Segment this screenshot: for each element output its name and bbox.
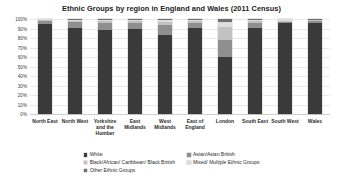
legend-swatch-icon — [84, 153, 88, 157]
x-axis-label: Yorkshire and the Humber — [90, 118, 120, 146]
stacked-bar[interactable] — [248, 19, 262, 114]
x-axis-label: West Midlands — [150, 118, 180, 146]
bars-layer — [30, 19, 330, 114]
bar-segment[interactable] — [158, 25, 172, 35]
legend-swatch-icon — [187, 153, 191, 157]
x-axis-label: East Midlands — [120, 118, 150, 146]
y-axis-tick-label: 30% — [18, 83, 27, 88]
bar-segment[interactable] — [218, 40, 232, 58]
stacked-bar[interactable] — [308, 19, 322, 114]
y-axis-tick-label: 100% — [15, 17, 27, 22]
plot-area — [30, 19, 330, 114]
y-axis-tick-label: 40% — [18, 74, 27, 79]
bar-slot — [30, 19, 60, 114]
legend-column-right: Asian/Asian BritishMixed/ Multiple Ethni… — [187, 152, 260, 184]
bar-slot — [60, 19, 90, 114]
bar-segment[interactable] — [158, 35, 172, 114]
bar-segment[interactable] — [98, 30, 112, 114]
stacked-bar[interactable] — [278, 19, 292, 114]
legend-item[interactable]: Mixed/ Multiple Ethnic Groups — [187, 160, 260, 166]
y-axis-tick-label: 70% — [18, 45, 27, 50]
legend-label: Black/African/ Caribbean/ Black British — [90, 160, 175, 166]
legend-item[interactable]: Black/African/ Caribbean/ Black British — [84, 160, 175, 166]
x-axis-label: North East — [30, 118, 60, 146]
y-axis-tick-label: 20% — [18, 93, 27, 98]
stacked-bar[interactable] — [218, 19, 232, 114]
y-axis-tick-label: 80% — [18, 36, 27, 41]
y-axis-tick-label: 0% — [20, 112, 27, 117]
legend-label: White — [90, 152, 103, 158]
bar-segment[interactable] — [68, 28, 82, 114]
x-axis-label: London — [210, 118, 240, 146]
legend-item[interactable]: Other Ethnic Groups — [84, 168, 175, 174]
x-axis-label: South East — [240, 118, 270, 146]
bar-segment[interactable] — [98, 23, 112, 30]
bar-segment[interactable] — [218, 27, 232, 40]
bar-slot — [240, 19, 270, 114]
stacked-bar[interactable] — [98, 19, 112, 114]
x-axis-label: Wales — [300, 118, 330, 146]
x-axis: North EastNorth WestYorkshire and the Hu… — [30, 118, 330, 146]
legend-swatch-icon — [187, 161, 191, 165]
chart-legend: WhiteBlack/African/ Caribbean/ Black Bri… — [0, 152, 343, 184]
bar-slot — [90, 19, 120, 114]
y-axis-tick-label: 90% — [18, 26, 27, 31]
y-axis-tick-label: 10% — [18, 102, 27, 107]
x-axis-label: North West — [60, 118, 90, 146]
bar-segment[interactable] — [128, 29, 142, 114]
chart-title: Ethnic Groups by region in England and W… — [0, 4, 343, 13]
legend-item[interactable]: White — [84, 152, 175, 158]
y-axis-tick-label: 50% — [18, 64, 27, 69]
legend-item[interactable]: Asian/Asian British — [187, 152, 260, 158]
x-axis-label: South West — [270, 118, 300, 146]
legend-column-left: WhiteBlack/African/ Caribbean/ Black Bri… — [84, 152, 175, 184]
bar-slot — [300, 19, 330, 114]
y-axis: 100%90%80%70%60%50%40%30%20%10%0% — [2, 19, 28, 114]
bar-segment[interactable] — [38, 24, 52, 114]
bar-segment[interactable] — [188, 28, 202, 114]
bar-slot — [150, 19, 180, 114]
stacked-bar[interactable] — [158, 19, 172, 114]
legend-swatch-icon — [84, 161, 88, 165]
bar-segment[interactable] — [308, 23, 322, 114]
y-axis-tick-label: 60% — [18, 55, 27, 60]
stacked-bar[interactable] — [68, 19, 82, 114]
legend-label: Asian/Asian British — [193, 152, 235, 158]
bar-slot — [210, 19, 240, 114]
bar-segment[interactable] — [248, 28, 262, 114]
stacked-bar[interactable] — [38, 19, 52, 114]
bar-segment[interactable] — [218, 57, 232, 114]
stacked-bar[interactable] — [128, 19, 142, 114]
legend-label: Other Ethnic Groups — [90, 168, 136, 174]
bar-slot — [180, 19, 210, 114]
x-axis-label: East of England — [180, 118, 210, 146]
legend-swatch-icon — [84, 169, 88, 173]
bar-slot — [270, 19, 300, 114]
stacked-bar[interactable] — [188, 19, 202, 114]
gridline — [30, 114, 330, 115]
chart-container: Ethnic Groups by region in England and W… — [0, 0, 343, 188]
legend-label: Mixed/ Multiple Ethnic Groups — [193, 160, 259, 166]
bar-slot — [120, 19, 150, 114]
bar-segment[interactable] — [278, 23, 292, 114]
